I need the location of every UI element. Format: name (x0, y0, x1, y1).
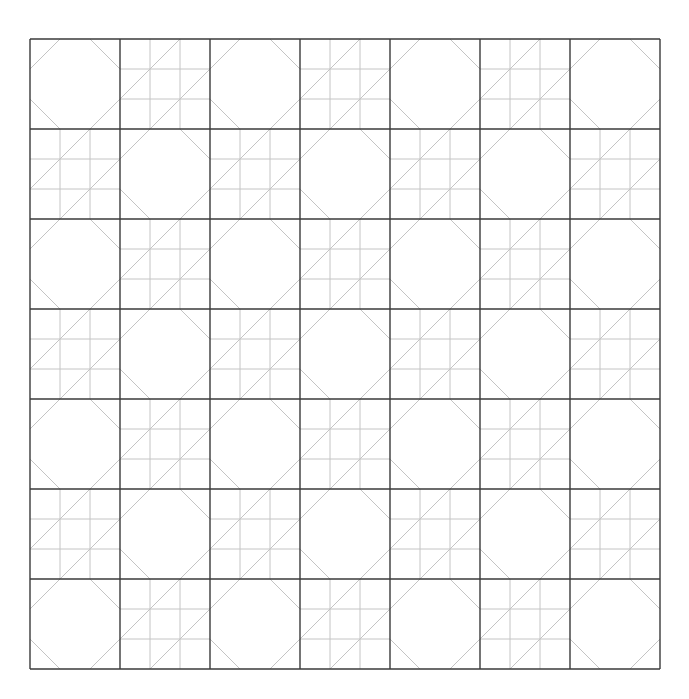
snowball-block (570, 219, 660, 309)
octagon-corner-line (390, 279, 420, 309)
octagon-corner-line (120, 129, 150, 159)
snowball-block (210, 399, 300, 489)
octagon-corner-line (390, 399, 420, 429)
octagon-corner-line (210, 99, 240, 129)
nine-patch-block (390, 309, 480, 399)
octagon-corner-line (90, 459, 120, 489)
octagon-corner-line (450, 39, 480, 69)
octagon-corner-line (90, 219, 120, 249)
octagon-corner-line (300, 189, 330, 219)
nine-patch-block (390, 129, 480, 219)
octagon-corner-line (30, 279, 60, 309)
octagon-corner-line (360, 309, 390, 339)
octagon-corner-line (30, 39, 60, 69)
octagon-corner-line (390, 219, 420, 249)
octagon-corner-line (210, 639, 240, 669)
octagon-corner-line (120, 309, 150, 339)
octagon-corner-line (570, 39, 600, 69)
octagon-corner-line (630, 39, 660, 69)
octagon-corner-line (540, 549, 570, 579)
octagon-corner-line (630, 639, 660, 669)
snowball-block (480, 309, 570, 399)
octagon-corner-line (210, 399, 240, 429)
snowball-block (120, 129, 210, 219)
octagon-corner-line (180, 549, 210, 579)
octagon-corner-line (180, 489, 210, 519)
octagon-corner-line (180, 309, 210, 339)
octagon-corner-line (540, 129, 570, 159)
octagon-corner-line (270, 639, 300, 669)
octagon-corner-line (450, 279, 480, 309)
snowball-block (570, 399, 660, 489)
octagon-corner-line (630, 399, 660, 429)
octagon-corner-line (270, 579, 300, 609)
octagon-corner-line (120, 489, 150, 519)
octagon-corner-line (630, 279, 660, 309)
snowball-block (480, 489, 570, 579)
octagon-corner-line (270, 399, 300, 429)
octagon-corner-line (540, 309, 570, 339)
nine-patch-block (480, 39, 570, 129)
nine-patch-block (120, 219, 210, 309)
octagon-corner-line (210, 579, 240, 609)
octagon-corner-line (270, 279, 300, 309)
nine-patch-block (30, 309, 120, 399)
snowball-block (210, 579, 300, 669)
octagon-corner-line (390, 99, 420, 129)
octagon-corner-line (90, 639, 120, 669)
octagon-corner-line (120, 369, 150, 399)
snowball-block (30, 219, 120, 309)
octagon-corner-line (90, 99, 120, 129)
snowball-block (300, 489, 390, 579)
nine-patch-block (30, 129, 120, 219)
octagon-corner-line (210, 459, 240, 489)
octagon-corner-line (570, 459, 600, 489)
octagon-corner-line (120, 549, 150, 579)
snowball-block (570, 579, 660, 669)
octagon-corner-line (480, 129, 510, 159)
octagon-corner-line (360, 189, 390, 219)
octagon-corner-line (570, 99, 600, 129)
snowball-block (390, 219, 480, 309)
octagon-corner-line (210, 39, 240, 69)
octagon-corner-line (30, 399, 60, 429)
octagon-corner-line (570, 579, 600, 609)
octagon-corner-line (90, 399, 120, 429)
octagon-corner-line (360, 549, 390, 579)
octagon-corner-line (630, 219, 660, 249)
octagon-corner-line (300, 129, 330, 159)
octagon-corner-line (360, 369, 390, 399)
octagon-corner-line (360, 489, 390, 519)
octagon-corner-line (90, 279, 120, 309)
block-outlines (30, 39, 660, 669)
octagon-corner-line (630, 579, 660, 609)
octagon-corner-line (30, 219, 60, 249)
snowball-block (390, 39, 480, 129)
octagon-corner-line (570, 639, 600, 669)
octagon-corner-line (450, 579, 480, 609)
nine-patch-block (120, 39, 210, 129)
snowball-block (120, 489, 210, 579)
octagon-corner-line (570, 279, 600, 309)
octagon-corner-line (300, 489, 330, 519)
octagon-corner-line (300, 549, 330, 579)
octagon-corner-line (270, 459, 300, 489)
octagon-corner-line (390, 459, 420, 489)
nine-patch-block (300, 579, 390, 669)
octagon-corner-line (210, 279, 240, 309)
octagon-corner-line (480, 369, 510, 399)
snowball-block (570, 39, 660, 129)
octagon-corner-line (570, 219, 600, 249)
octagon-corner-line (630, 459, 660, 489)
octagon-corner-line (540, 489, 570, 519)
nine-patch-block (390, 489, 480, 579)
octagon-corner-line (480, 309, 510, 339)
nine-patch-block (30, 489, 120, 579)
octagon-corner-line (30, 99, 60, 129)
octagon-corner-line (480, 189, 510, 219)
octagon-corner-line (390, 579, 420, 609)
octagon-corner-line (450, 459, 480, 489)
octagon-corner-line (450, 219, 480, 249)
octagon-corner-line (30, 459, 60, 489)
nine-patch-block (210, 489, 300, 579)
